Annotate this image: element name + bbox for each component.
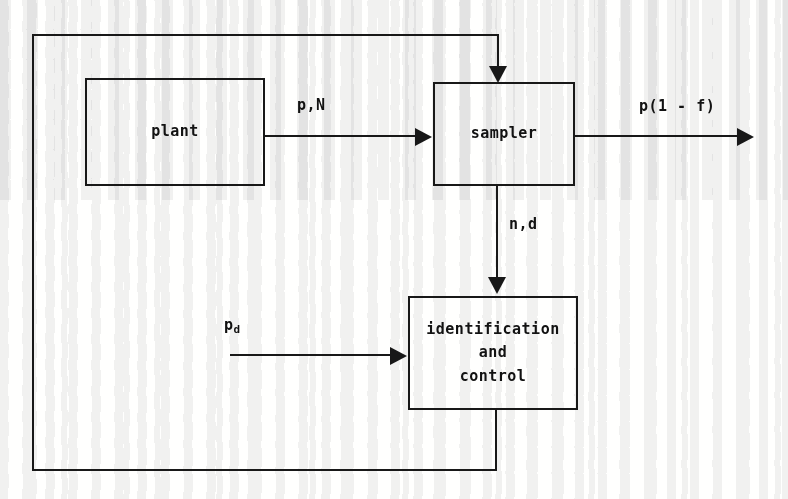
- scan-bleedthrough-texture: [0, 0, 788, 499]
- signal-label-p-d-base: p: [224, 316, 234, 334]
- feedback-left-segment: [32, 34, 34, 471]
- signal-label-p-d-subscript: d: [234, 323, 241, 336]
- signal-line-desired-input: [230, 354, 392, 356]
- signal-line-sampler-output: [575, 135, 740, 137]
- block-sampler-label: sampler: [471, 122, 538, 145]
- block-plant-label: plant: [151, 120, 199, 143]
- plant-to-sampler-arrowhead-icon: [415, 128, 432, 146]
- sampler-to-identification-arrowhead-icon: [488, 277, 506, 294]
- block-identification-and-control-label: identification and control: [426, 318, 559, 388]
- sampler-output-arrowhead-icon: [737, 128, 754, 146]
- signal-line-plant-to-sampler: [264, 135, 417, 137]
- signal-label-p-1-minus-f: p(1 - f): [639, 97, 715, 115]
- feedback-bottom-segment: [32, 469, 497, 471]
- block-diagram-figure: plant p,N sampler p(1 - f) n,d identific…: [0, 0, 788, 499]
- block-identification-and-control: identification and control: [408, 296, 578, 410]
- block-plant: plant: [85, 78, 265, 186]
- signal-label-n-d: n,d: [509, 215, 538, 233]
- feedback-arrowhead-icon: [489, 66, 507, 83]
- signal-label-p-d: pd: [224, 316, 241, 336]
- block-sampler: sampler: [433, 82, 575, 186]
- signal-label-p-N: p,N: [297, 96, 326, 114]
- desired-input-arrowhead-icon: [390, 347, 407, 365]
- feedback-top-segment: [32, 34, 499, 36]
- feedback-riser-segment: [495, 409, 497, 471]
- signal-line-sampler-to-identification: [496, 186, 498, 282]
